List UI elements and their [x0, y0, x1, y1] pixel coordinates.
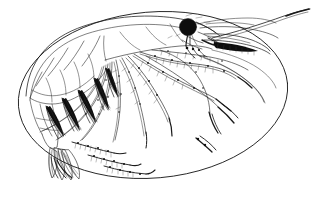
crustacean-illustration: Crustacean lateral view line drawing — [0, 0, 318, 207]
figure-root: Crustacean lateral view line drawing — [0, 0, 318, 207]
